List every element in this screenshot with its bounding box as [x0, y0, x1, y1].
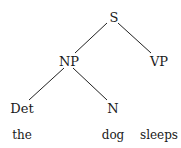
- node-n: N: [107, 102, 118, 116]
- leaf-sleeps: sleeps: [140, 128, 178, 142]
- leaf-the: the: [12, 128, 32, 142]
- edge-np-det: [29, 68, 64, 100]
- edge-np-n: [73, 68, 107, 100]
- edge-s-vp: [118, 23, 151, 53]
- node-vp: VP: [150, 55, 168, 69]
- leaf-dog: dog: [102, 128, 125, 142]
- node-det: Det: [10, 102, 33, 116]
- node-np: NP: [59, 55, 79, 69]
- edge-s-np: [75, 23, 107, 53]
- tree-edges: [0, 0, 181, 148]
- node-s: S: [110, 11, 119, 25]
